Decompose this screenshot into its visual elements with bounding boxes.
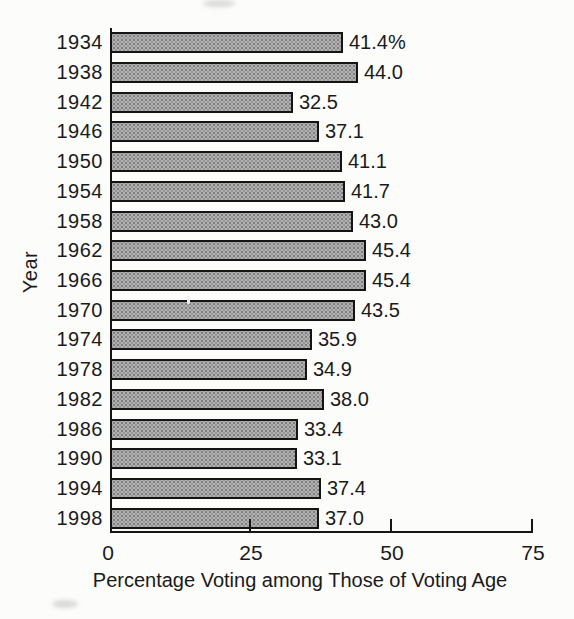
bar-1978	[110, 359, 307, 380]
scan-speck-1970-bar	[187, 296, 190, 304]
value-label: 37.4	[327, 478, 366, 499]
year-label: 1978	[0, 359, 103, 380]
bar-1970	[110, 300, 355, 321]
y-axis-title: Year	[19, 251, 42, 293]
value-label: 41.1	[348, 151, 387, 172]
bar-1962	[110, 240, 366, 261]
bar-1974	[110, 329, 312, 350]
year-label: 1942	[0, 92, 103, 113]
year-label: 1990	[0, 448, 103, 469]
x-tick-label-0: 0	[102, 541, 114, 565]
value-label: 37.0	[325, 508, 364, 529]
year-label: 1982	[0, 389, 103, 410]
bar-1938	[110, 62, 358, 83]
value-label: 37.1	[325, 121, 364, 142]
value-label: 44.0	[364, 62, 403, 83]
value-label: 38.0	[330, 389, 369, 410]
value-label: 43.0	[359, 211, 398, 232]
scan-smudge-top	[203, 0, 235, 7]
year-label: 1950	[0, 151, 103, 172]
bar-1950	[110, 151, 342, 172]
x-tick-label-75: 75	[521, 541, 544, 565]
scan-smudge-bottom	[52, 600, 78, 608]
value-label: 32.5	[299, 92, 338, 113]
year-label: 1998	[0, 508, 103, 529]
value-label: 41.4%	[349, 32, 406, 53]
bar-1966	[110, 270, 366, 291]
bar-1942	[110, 92, 293, 113]
bar-1998	[110, 508, 319, 529]
value-label: 45.4	[372, 270, 411, 291]
bar-1994	[110, 478, 321, 499]
value-label: 33.4	[304, 419, 343, 440]
bar-1986	[110, 419, 298, 440]
x-tick-75	[531, 519, 533, 533]
value-label: 43.5	[361, 300, 400, 321]
bar-1982	[110, 389, 324, 410]
bar-1934	[110, 32, 343, 53]
bar-1990	[110, 448, 297, 469]
bar-1958	[110, 211, 353, 232]
value-label: 34.9	[313, 359, 352, 380]
x-tick-50	[390, 519, 392, 533]
year-label: 1974	[0, 329, 103, 350]
year-label: 1946	[0, 121, 103, 142]
value-label: 33.1	[303, 448, 342, 469]
bar-1954	[110, 181, 345, 202]
value-label: 45.4	[372, 240, 411, 261]
year-label: 1958	[0, 211, 103, 232]
year-label: 1934	[0, 32, 103, 53]
year-label: 1938	[0, 62, 103, 83]
year-label: 1962	[0, 240, 103, 261]
year-label: 1994	[0, 478, 103, 499]
x-tick-label-50: 50	[380, 541, 403, 565]
voting-bar-chart: 193441.4%193844.0194232.5194637.1195041.…	[0, 0, 574, 619]
value-label: 35.9	[318, 329, 357, 350]
year-label: 1970	[0, 300, 103, 321]
bar-1946	[110, 121, 319, 142]
value-label: 41.7	[351, 181, 390, 202]
x-axis-title: Percentage Voting among Those of Voting …	[93, 569, 507, 592]
year-label: 1986	[0, 419, 103, 440]
x-tick-label-25: 25	[239, 541, 262, 565]
year-label: 1954	[0, 181, 103, 202]
x-tick-25	[249, 519, 251, 533]
year-label: 1966	[0, 270, 103, 291]
